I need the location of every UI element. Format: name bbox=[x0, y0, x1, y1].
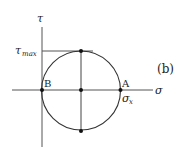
top-dot bbox=[79, 49, 83, 53]
bottom-dot bbox=[79, 129, 83, 133]
tau-max-label-sub: max bbox=[22, 50, 37, 58]
point-b-label: B bbox=[44, 78, 51, 89]
tau-axis-label: τ bbox=[37, 12, 44, 25]
sigma-x-label-sub: x bbox=[129, 98, 133, 106]
mohr-circle-diagram: τ σ τ max B A σ x (b) bbox=[0, 0, 186, 157]
sigma-axis-label: σ bbox=[155, 84, 163, 97]
center-dot bbox=[79, 88, 83, 92]
tau-max-label-main: τ bbox=[15, 44, 22, 57]
point-a-label: A bbox=[121, 78, 130, 89]
panel-label: (b) bbox=[157, 62, 174, 76]
